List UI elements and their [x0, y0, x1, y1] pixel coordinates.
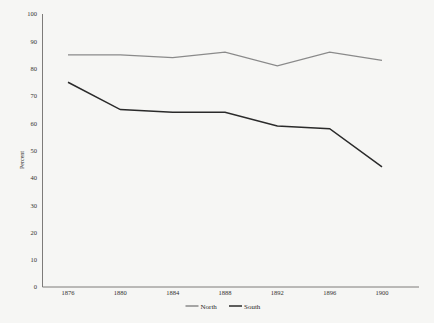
x-tick-label: 1896	[323, 289, 337, 296]
legend-label-north: North	[201, 303, 218, 311]
y-tick-label: 30	[31, 202, 38, 209]
y-tick-label: 50	[31, 147, 38, 154]
y-tick-label: 80	[31, 65, 38, 72]
x-tick-label: 1892	[271, 289, 284, 296]
x-tick-label: 1888	[219, 289, 232, 296]
x-tick-label: 1900	[376, 289, 389, 296]
y-tick-label: 100	[27, 10, 37, 17]
x-tick-label: 1876	[62, 289, 76, 296]
x-tick-label: 1884	[166, 289, 180, 296]
x-tick-label: 1880	[114, 289, 127, 296]
y-tick-label: 60	[31, 120, 38, 127]
line-chart: 0102030405060708090100 18761880188418881…	[0, 0, 434, 323]
y-tick-label: 90	[31, 38, 38, 45]
legend-label-south: South	[244, 303, 261, 311]
y-tick-label: 0	[34, 283, 37, 290]
y-tick-label: 40	[31, 174, 38, 181]
y-axis-title: Percent	[19, 151, 25, 169]
y-tick-label: 70	[31, 92, 38, 99]
chart-canvas: 0102030405060708090100 18761880188418881…	[0, 0, 434, 323]
chart-background	[0, 0, 434, 323]
y-tick-label: 10	[31, 256, 38, 263]
y-tick-label: 20	[31, 229, 38, 236]
